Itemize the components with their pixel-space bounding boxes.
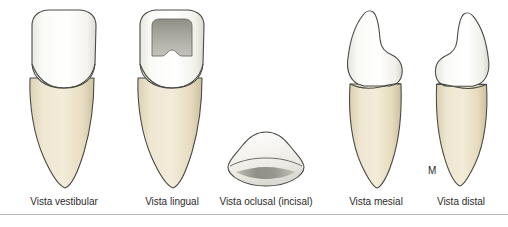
lingual-fossa-shading [152,19,192,56]
tooth-distal-icon [418,6,506,194]
view-mesial [330,6,420,194]
tooth-mesial-icon [330,6,420,194]
caption-distal: Vista distal [416,196,506,207]
caption-oclusal: Vista oclusal (incisal) [206,196,326,207]
tooth-anatomy-figure: M D [0,0,508,227]
view-oclusal: M D [212,6,320,194]
tooth-occlusal-icon [212,6,320,194]
caption-row: Vista vestibular Vista lingual Vista ocl… [0,196,508,212]
caption-mesial: Vista mesial [330,196,422,207]
view-vestibular [8,6,120,194]
tooth-vestibular-icon [8,6,120,194]
tooth-lingual-icon [118,6,226,194]
caption-vestibular: Vista vestibular [8,196,120,207]
bottom-divider [0,214,508,215]
view-distal [418,6,506,194]
view-lingual [118,6,226,194]
